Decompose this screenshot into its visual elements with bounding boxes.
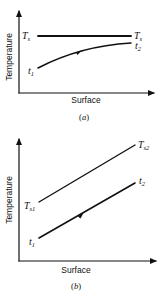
caption-b: (b) [71, 281, 81, 291]
fluid-temp-line-b [39, 183, 135, 238]
x-axis-label-b: Surface [61, 265, 91, 275]
heat-exchange-temperature-diagram: Temperature Surface Ts Ts t1 t2 (a) [0, 0, 164, 295]
y-axis-label-a: Temperature [4, 33, 14, 81]
label-t1-a: t1 [28, 65, 34, 77]
label-ts2-b: Ts2 [138, 139, 150, 151]
label-ts1-b: Ts1 [24, 200, 35, 212]
panel-b: Temperature Surface Ts1 Ts2 t1 t2 (b) [4, 139, 156, 291]
caption-a: (a) [79, 112, 89, 122]
surface-temp-line-b [39, 145, 135, 202]
x-axis-label-a: Surface [71, 95, 101, 105]
label-t1-b: t1 [29, 236, 35, 248]
fluid-temp-curve-a [38, 43, 131, 68]
label-t2-b: t2 [139, 175, 146, 187]
panel-a: Temperature Surface Ts Ts t1 t2 (a) [4, 11, 154, 122]
label-ts-left-a: Ts [22, 30, 31, 42]
y-axis-label-b: Temperature [4, 176, 14, 224]
